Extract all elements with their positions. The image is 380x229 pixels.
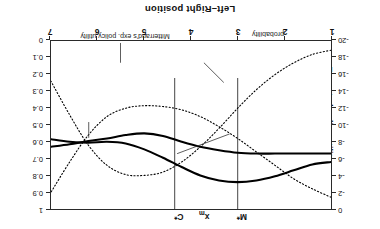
y-tick-right: 0.2: [19, 71, 43, 79]
annotation-3: Mitterrand's exp. policy utility: [66, 32, 184, 40]
y-tick-right: 0.9: [19, 190, 43, 198]
y-tick-right: 0.4: [19, 105, 43, 113]
y-tick-left: 0: [338, 207, 360, 215]
x-tick: 1: [324, 28, 340, 37]
y-tick-mark-left: [332, 39, 336, 40]
series-line-1: [51, 50, 331, 176]
y-tick-mark-left: [332, 175, 336, 176]
y-tick-right: 0.5: [19, 122, 43, 130]
y-tick-right: 0.1: [19, 54, 43, 62]
plot-area: [50, 40, 332, 210]
y-tick-right: 0: [19, 37, 43, 45]
y-tick-mark-left: [332, 90, 336, 91]
leader-line-1: [204, 63, 224, 83]
y-tick-mark-left: [332, 107, 336, 108]
y-tick-left: -2: [338, 190, 360, 198]
y-tick-mark-left: [332, 124, 336, 125]
y-tick-left: -12: [338, 105, 360, 113]
x-tick: 4: [183, 28, 199, 37]
marker-label-chirac-optimum: C*: [174, 212, 183, 222]
y-tick-mark-left: [332, 158, 336, 159]
y-tick-left: -8: [338, 139, 360, 147]
y-tick-left: -14: [338, 88, 360, 96]
y-tick-right: 0.8: [19, 173, 43, 181]
x-axis-title: Left–Right position: [0, 4, 380, 15]
y-tick-left: -6: [338, 156, 360, 164]
y-tick-left: -18: [338, 54, 360, 62]
y-tick-mark-left: [332, 209, 336, 210]
y-tick-mark-left: [332, 73, 336, 74]
y-tick-left: -20: [338, 37, 360, 45]
data-curves: [51, 50, 331, 197]
y-tick-mark-left: [332, 56, 336, 57]
y-tick-left: -16: [338, 71, 360, 79]
y-tick-right: 0.3: [19, 88, 43, 96]
y-tick-right: 0.6: [19, 139, 43, 147]
y-tick-right: 1: [19, 207, 43, 215]
x-tick: 7: [42, 28, 58, 37]
y-tick-left: -10: [338, 122, 360, 130]
annotation-line-1: Mitterrand's exp. policy utility: [66, 32, 184, 40]
plot-svg: [51, 41, 331, 209]
chart-figure: Left–Right position Expected policy util…: [0, 0, 380, 229]
y-tick-right: 0.7: [19, 156, 43, 164]
y-tick-left: -4: [338, 173, 360, 181]
marker-label-mitterrand-optimum: M*: [237, 212, 247, 222]
annotation-line-2: probability: [220, 30, 316, 38]
y-tick-mark-left: [332, 141, 336, 142]
y-tick-mark-left: [332, 192, 336, 193]
marker-label-median-voter: xm: [199, 210, 210, 222]
